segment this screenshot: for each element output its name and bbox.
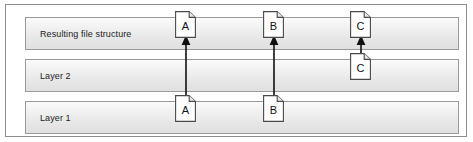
band-label-resulting-file-structure: Resulting file structure: [40, 29, 131, 38]
file-icon-layer1-a[interactable]: A: [175, 95, 196, 122]
band-label-layer-2: Layer 2: [40, 71, 71, 80]
file-document-icon: [263, 95, 284, 122]
band-resulting-file-structure: Resulting file structure: [25, 17, 459, 50]
file-icon-result-b[interactable]: B: [263, 11, 284, 38]
layered-filesystem-diagram: Resulting file structure Layer 2 Layer 1: [0, 0, 473, 142]
file-document-icon: [175, 11, 196, 38]
file-icon-layer2-c[interactable]: C: [350, 53, 371, 80]
band-layer-1: Layer 1: [25, 101, 459, 134]
file-document-icon: [350, 11, 371, 38]
diagram-frame: Resulting file structure Layer 2 Layer 1: [5, 4, 467, 137]
file-document-icon: [350, 53, 371, 80]
band-label-layer-1: Layer 1: [40, 113, 71, 122]
file-document-icon: [263, 11, 284, 38]
file-icon-result-a[interactable]: A: [175, 11, 196, 38]
file-icon-result-c[interactable]: C: [350, 11, 371, 38]
file-icon-layer1-b[interactable]: B: [263, 95, 284, 122]
band-layer-2: Layer 2: [25, 59, 459, 92]
file-document-icon: [175, 95, 196, 122]
